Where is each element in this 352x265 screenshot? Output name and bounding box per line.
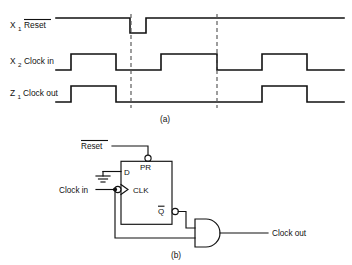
waveform-x1-reset	[56, 18, 344, 33]
signal-name-z1: Z	[10, 88, 15, 98]
ground-symbol	[96, 176, 110, 182]
pin-label-d: D	[124, 168, 130, 177]
caption-circuit: (b)	[171, 250, 181, 260]
signal-label-reset: Reset	[24, 20, 47, 30]
circuit-diagram: Reset D PR CLK Q	[59, 141, 307, 261]
figure-root: X 1 Reset X 2 Clock in Z 1 Clock out	[0, 0, 352, 265]
signal-label-z1-clock-out: Z 1 Clock out	[10, 88, 59, 100]
preset-inversion-bubble	[145, 155, 151, 161]
signal-subscript-x1: 1	[18, 25, 22, 32]
and-gate	[195, 219, 220, 247]
qbar-inversion-bubble	[172, 208, 178, 214]
signal-label-clock-in: Clock in	[24, 56, 54, 66]
circuit-input-reset: Reset	[81, 141, 108, 152]
waveform-z1-clock-out	[56, 86, 344, 102]
wire-qbar-to-and-gate	[178, 212, 195, 229]
wire-clock-in-to-and-gate	[115, 190, 195, 239]
signal-label-clock-out: Clock out	[23, 88, 59, 98]
clk-edge-trigger-wedge	[121, 185, 128, 195]
figure-canvas: X 1 Reset X 2 Clock in Z 1 Clock out	[0, 0, 352, 265]
waveform-x2-clock-in	[56, 54, 344, 70]
pin-label-qbar: Q	[158, 207, 164, 216]
signal-subscript-z1: 1	[18, 93, 22, 100]
signal-label-x1-reset: X 1 Reset	[10, 20, 51, 32]
signal-label-x2-clock-in: X 2 Clock in	[10, 56, 54, 68]
pin-label-clk: CLK	[133, 186, 149, 195]
signal-name-x2: X	[10, 56, 16, 66]
wire-reset-to-preset	[112, 146, 148, 155]
signal-subscript-x2: 2	[18, 61, 22, 68]
circuit-label-clock-in: Clock in	[59, 186, 89, 195]
pin-label-pr: PR	[140, 163, 151, 172]
signal-name-x1: X	[10, 20, 16, 30]
caption-timing: (a)	[160, 114, 170, 124]
circuit-label-clock-out: Clock out	[272, 229, 307, 238]
circuit-label-reset: Reset	[81, 142, 103, 151]
timing-diagram: X 1 Reset X 2 Clock in Z 1 Clock out	[10, 14, 344, 124]
